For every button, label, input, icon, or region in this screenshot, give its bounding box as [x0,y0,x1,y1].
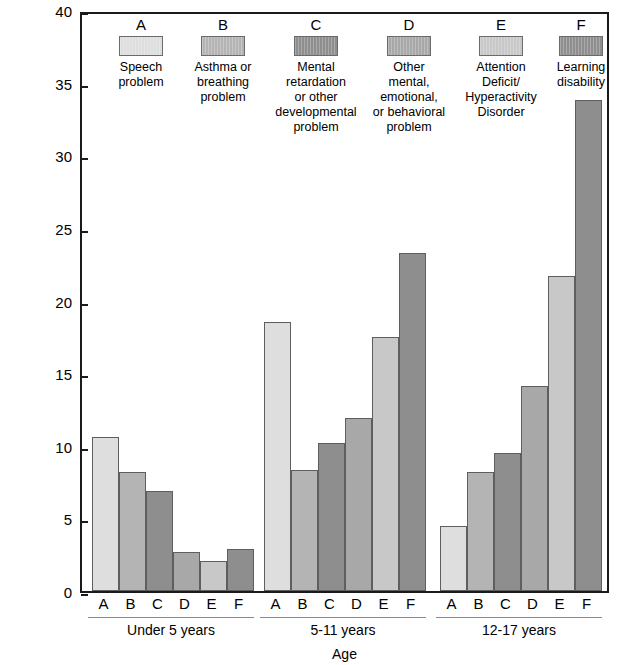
legend-label: Speech problem [98,60,184,90]
x-group-label: 5-11 years [260,621,426,639]
x-tick-label-A: A [440,595,464,613]
x-tick-label-D: D [173,595,197,613]
bar-under-5-years-E [200,561,227,592]
bar-under-5-years-C [146,491,173,591]
bar-under-5-years-B [119,472,146,591]
x-tick-label-E: E [548,595,572,613]
bar-under-5-years-D [173,552,200,591]
legend-label: Mental retardation or other developmenta… [273,60,359,135]
x-tick-label-F: F [227,595,251,613]
x-tick-label-B: B [119,595,143,613]
x-axis-title: Age [80,645,609,663]
x-tick-label-D: D [345,595,369,613]
y-axis-tick-label: 25 [38,222,72,237]
y-axis-tick [81,304,88,306]
x-tick-label-A: A [92,595,116,613]
y-axis-tick [81,158,88,160]
y-axis-tick [81,86,88,88]
x-tick-label-A: A [264,595,288,613]
bar-under-5-years-F [227,549,254,591]
legend-label: Attention Deficit/ Hyperactivity Disorde… [458,60,544,120]
legend-label: Other mental, emotional, or behavioral p… [366,60,452,135]
bar-12-17-years-B [467,472,494,591]
chart-legend: ASpeech problemBAsthma or breathing prob… [98,16,598,166]
bar-12-17-years-D [521,386,548,591]
bar-5-11-years-A [264,322,291,591]
legend-label: Learning disability [538,60,623,90]
legend-letter: F [538,16,623,33]
y-axis-tick-label: 5 [38,512,72,527]
bar-5-11-years-D [345,418,372,591]
bar-5-11-years-E [372,337,399,591]
x-group-rule [260,617,426,618]
x-tick-label-C: C [318,595,342,613]
x-tick-label-D: D [521,595,545,613]
x-group-label: 12-17 years [436,621,602,639]
x-tick-label-E: E [372,595,396,613]
bar-12-17-years-A [440,526,467,591]
y-axis-tick-label: 20 [38,295,72,310]
y-axis-tick-label: 0 [38,585,72,600]
legend-item-D: DOther mental, emotional, or behavioral … [366,16,452,135]
x-group-rule [88,617,254,618]
legend-letter: E [458,16,544,33]
x-axis: ABCDEFABCDEFABCDEF Under 5 years5-11 yea… [80,595,609,665]
legend-swatch [119,36,163,56]
legend-letter: B [180,16,266,33]
legend-swatch [559,36,603,56]
bar-12-17-years-F [575,100,602,591]
x-tick-label-C: C [494,595,518,613]
legend-swatch [294,36,338,56]
legend-swatch [387,36,431,56]
x-tick-label-C: C [146,595,170,613]
bar-12-17-years-C [494,453,521,591]
x-tick-label-E: E [200,595,224,613]
y-axis-tick-label: 10 [38,440,72,455]
y-axis-title: Number of children with limitation of ac… [0,0,10,110]
legend-label: Asthma or breathing problem [180,60,266,105]
chart-figure: Number of children with limitation of ac… [0,0,623,665]
x-group-rule [436,617,602,618]
y-axis-tick [81,376,88,378]
legend-letter: D [366,16,452,33]
y-axis-tick [81,521,88,523]
legend-item-F: FLearning disability [538,16,623,90]
legend-swatch [479,36,523,56]
x-tick-label-B: B [467,595,491,613]
y-axis-tick-label: 15 [38,367,72,382]
y-axis-tick-label: 35 [38,77,72,92]
bar-under-5-years-A [92,437,119,591]
legend-item-A: ASpeech problem [98,16,184,90]
y-axis-tick [81,231,88,233]
legend-item-C: CMental retardation or other development… [273,16,359,135]
bar-5-11-years-F [399,253,426,591]
plot-area: ASpeech problemBAsthma or breathing prob… [80,12,609,593]
legend-item-B: BAsthma or breathing problem [180,16,266,105]
x-group-label: Under 5 years [88,621,254,639]
legend-letter: C [273,16,359,33]
y-axis-tick [81,449,88,451]
legend-item-E: EAttention Deficit/ Hyperactivity Disord… [458,16,544,120]
y-axis-tick [81,13,88,15]
y-axis-tick-label: 30 [38,149,72,164]
bar-12-17-years-E [548,276,575,591]
bar-5-11-years-C [318,443,345,591]
legend-swatch [201,36,245,56]
legend-letter: A [98,16,184,33]
x-tick-label-F: F [399,595,423,613]
x-tick-label-B: B [291,595,315,613]
x-tick-label-F: F [575,595,599,613]
y-axis-tick-label: 40 [38,4,72,19]
bar-5-11-years-B [291,470,318,591]
